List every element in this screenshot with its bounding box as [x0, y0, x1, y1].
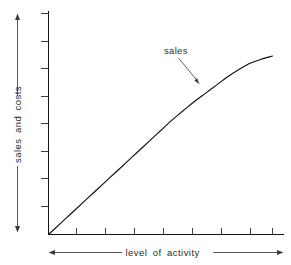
x-axis-label: level of activity	[126, 247, 200, 258]
chart-canvas: sales level of activity sales and costs	[0, 0, 291, 265]
chart-figure: sales level of activity sales and costs	[0, 0, 291, 265]
sales-callout-arrow	[179, 58, 200, 84]
sales-curve	[49, 56, 273, 234]
y-axis-ticks	[41, 14, 49, 207]
y-axis-label: sales and costs	[12, 86, 23, 163]
x-axis-label-group: level of activity	[49, 247, 284, 258]
x-axis-ticks	[77, 228, 273, 235]
y-axis-label-group: sales and costs	[12, 14, 23, 233]
sales-callout-label: sales	[164, 45, 188, 56]
